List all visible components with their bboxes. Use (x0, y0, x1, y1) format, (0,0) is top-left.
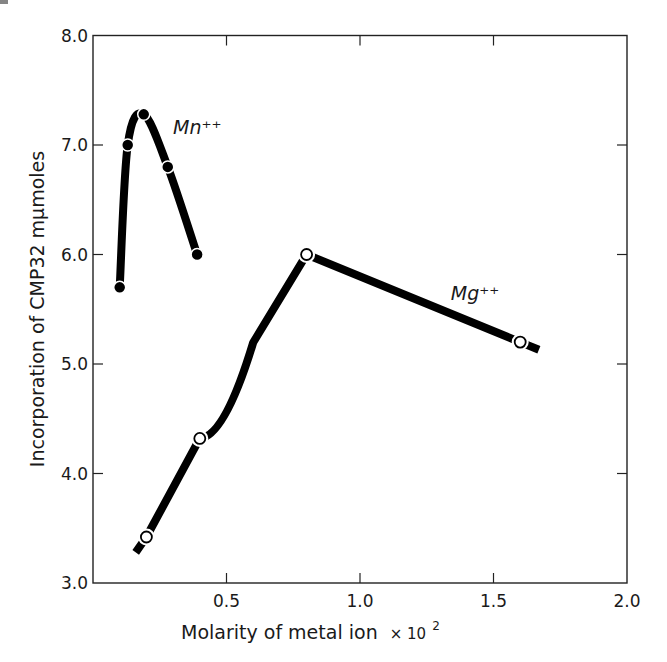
x-tick-label: 2.0 (613, 591, 640, 611)
y-tick-label: 6.0 (61, 245, 88, 265)
y-axis-title: Incorporation of CMP32 mμmoles (26, 151, 48, 467)
series-mg: Mg⁺⁺ (136, 249, 539, 553)
series-label-mn: Mn⁺⁺ (173, 116, 222, 138)
data-point-open (141, 532, 152, 543)
data-series: Mn⁺⁺Mg⁺⁺ (114, 108, 539, 552)
x-axis-title-exponent: 2 (432, 619, 440, 633)
x-axis-title-multiplier: × 10 (390, 625, 426, 643)
y-tick-label: 4.0 (61, 464, 88, 484)
x-tick-label: 1.0 (346, 591, 373, 611)
y-tick-label: 8.0 (61, 26, 88, 46)
x-axis-title: Molarity of metal ion × 10 2 (181, 619, 440, 643)
x-axis-title-main: Molarity of metal ion (181, 621, 378, 643)
data-point-open (301, 249, 312, 260)
chart: 0.51.01.52.03.04.05.06.07.08.0 Mn⁺⁺Mg⁺⁺ … (0, 0, 667, 662)
data-point-filled (114, 281, 126, 293)
y-tick-label: 3.0 (61, 573, 88, 593)
series-mn: Mn⁺⁺ (114, 108, 222, 293)
series-label-mg: Mg⁺⁺ (451, 282, 500, 304)
data-point-filled (122, 139, 134, 151)
data-point-filled (162, 161, 174, 173)
x-tick-label: 1.5 (480, 591, 507, 611)
data-point-open (515, 337, 526, 348)
data-point-open (194, 433, 205, 444)
y-tick-label: 5.0 (61, 354, 88, 374)
data-point-filled (191, 249, 203, 261)
x-tick-label: 0.5 (213, 591, 240, 611)
data-point-filled (138, 108, 150, 120)
y-tick-label: 7.0 (61, 135, 88, 155)
